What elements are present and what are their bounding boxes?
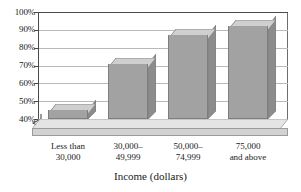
bar-4 [228,16,268,119]
bar-1 [48,100,88,119]
y-tick-label-90: 90% [0,25,35,34]
x-label-1-line-2: 30,000 [34,152,102,163]
bar-2 [108,54,148,119]
y-tick-label-40: 40% [0,115,35,124]
y-tick-mark-50 [34,101,38,102]
y-tick-label-100: 100% [0,8,35,17]
floor-front-face [32,128,288,136]
bar-chart-figure: Income (dollars) 40%50%60%70%80%90%100%L… [0,0,301,192]
bar-2-front-face [108,64,148,119]
bar-1-front-face [48,110,88,119]
bar-4-side-face [268,16,276,119]
y-tick-label-80: 80% [0,43,35,52]
bar-4-top-face [228,16,268,25]
y-axis-line [38,12,39,119]
x-category-label-3: 50,000–74,999 [154,141,222,162]
x-axis-title: Income (dollars) [0,170,301,182]
bar-2-top-face [108,54,148,63]
y-tick-mark-60 [34,83,38,84]
x-category-label-4: 75,000and above [214,141,282,162]
bar-3-side-face [208,25,216,119]
y-tick-label-60: 60% [0,79,35,88]
x-category-label-2: 30,000–49,999 [94,141,162,162]
y-tick-mark-100 [34,12,38,13]
bar-3-front-face [168,35,208,119]
bar-3-top-face [168,25,208,34]
x-label-1-line-1: Less than [34,141,102,152]
x-label-2-line-2: 49,999 [94,152,162,163]
bar-3 [168,25,208,119]
x-label-4-line-1: 75,000 [214,141,282,152]
x-label-3-line-1: 50,000– [154,141,222,152]
gridline-100 [38,12,288,13]
x-label-3-line-2: 74,999 [154,152,222,163]
y-tick-label-70: 70% [0,61,35,70]
x-label-2-line-1: 30,000– [94,141,162,152]
y-tick-mark-70 [34,66,38,67]
x-label-4-line-2: and above [214,152,282,163]
y-tick-mark-40 [34,119,38,120]
y-tick-mark-80 [34,48,38,49]
y-tick-label-50: 50% [0,97,35,106]
y-tick-mark-90 [34,30,38,31]
bar-1-top-face [48,100,88,109]
bar-4-front-face [228,26,268,119]
x-category-label-1: Less than30,000 [34,141,102,162]
